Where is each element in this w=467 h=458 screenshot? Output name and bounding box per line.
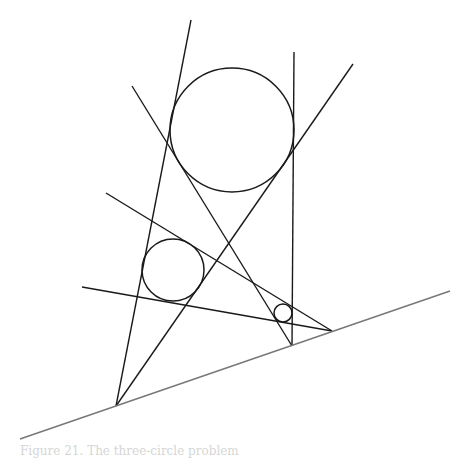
base-line xyxy=(20,291,450,439)
tangent-line-4 xyxy=(132,86,292,346)
circles-group xyxy=(142,68,294,322)
large-circle xyxy=(170,68,294,192)
small-circle xyxy=(274,304,292,322)
tangent-line-1 xyxy=(116,20,191,406)
tangent-lines-group xyxy=(82,20,353,406)
figure-caption: Figure 21. The three-circle problem xyxy=(20,444,239,458)
tangent-line-2 xyxy=(116,64,353,406)
tangent-line-3 xyxy=(292,52,294,346)
tangent-line-5 xyxy=(106,193,332,331)
tangent-line-6 xyxy=(82,287,332,331)
